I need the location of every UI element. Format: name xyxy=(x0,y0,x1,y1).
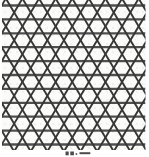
caption-mark xyxy=(70,152,74,156)
caption-mark xyxy=(66,152,69,156)
caption-mark xyxy=(76,153,78,155)
caption-illegible-marks xyxy=(66,152,91,156)
scanned-figure xyxy=(0,0,149,157)
caption-mark xyxy=(80,152,91,154)
kagome-lattice-figure xyxy=(0,0,149,157)
lattice-lines xyxy=(0,0,149,153)
